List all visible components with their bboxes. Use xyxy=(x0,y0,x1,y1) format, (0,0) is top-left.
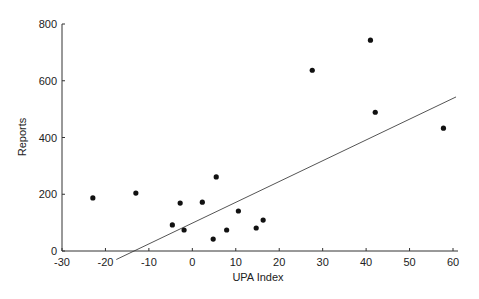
x-tick-label: -10 xyxy=(141,256,157,268)
data-point xyxy=(181,227,186,232)
y-tick-label: 200 xyxy=(39,188,57,200)
data-point xyxy=(254,225,259,230)
data-point xyxy=(211,236,216,241)
data-point xyxy=(178,200,183,205)
x-tick-label: 60 xyxy=(447,256,459,268)
y-tick-label: 600 xyxy=(39,75,57,87)
y-axis: 0200400600800 xyxy=(39,18,65,257)
x-tick-label: 40 xyxy=(360,256,372,268)
x-axis: -30-20-100102030405060 xyxy=(54,248,459,268)
y-axis-title: Reports xyxy=(16,117,28,156)
x-tick-label: 20 xyxy=(273,256,285,268)
plot-area xyxy=(90,38,456,260)
data-point xyxy=(133,191,138,196)
data-point xyxy=(261,217,266,222)
data-point xyxy=(224,227,229,232)
data-point xyxy=(90,195,95,200)
x-tick-label: -30 xyxy=(54,256,70,268)
x-tick-label: -20 xyxy=(97,256,113,268)
scatter-chart: 0200400600800 -30-20-100102030405060 Rep… xyxy=(0,0,479,299)
data-point xyxy=(441,126,446,131)
data-point xyxy=(170,222,175,227)
data-point xyxy=(236,208,241,213)
trendline xyxy=(116,97,456,260)
y-tick-label: 800 xyxy=(39,18,57,30)
data-point xyxy=(368,38,373,43)
x-tick-label: 50 xyxy=(403,256,415,268)
x-axis-title: UPA Index xyxy=(232,271,284,283)
data-point xyxy=(200,200,205,205)
x-tick-label: 30 xyxy=(317,256,329,268)
data-point xyxy=(310,68,315,73)
data-point xyxy=(214,174,219,179)
y-tick-label: 400 xyxy=(39,132,57,144)
x-tick-label: 0 xyxy=(189,256,195,268)
data-point xyxy=(373,110,378,115)
x-tick-label: 10 xyxy=(230,256,242,268)
